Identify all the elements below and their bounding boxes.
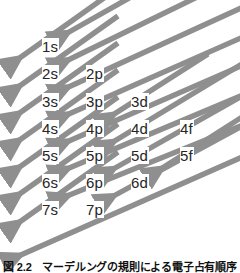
orbital-label-3s: 3s <box>42 93 59 110</box>
orbital-label-5p: 5p <box>86 147 104 164</box>
figure-caption: 図 2.2 マーデルングの規則による電子占有順序 <box>0 261 240 273</box>
orbital-label-6s: 6s <box>42 174 59 191</box>
orbital-label-3d: 3d <box>131 93 149 110</box>
orbital-label-3p: 3p <box>86 93 104 110</box>
orbital-label-4d: 4d <box>131 120 149 137</box>
orbital-label-1s: 1s <box>42 38 59 55</box>
orbital-label-7s: 7s <box>42 201 59 218</box>
orbital-label-5s: 5s <box>42 147 59 164</box>
orbital-label-5d: 5d <box>131 147 149 164</box>
orbital-label-5f: 5f <box>180 147 194 164</box>
orbital-label-6d: 6d <box>131 174 149 191</box>
orbital-label-2s: 2s <box>42 65 59 82</box>
orbital-label-4s: 4s <box>42 120 59 137</box>
orbital-label-2p: 2p <box>86 65 104 82</box>
orbital-label-4p: 4p <box>86 120 104 137</box>
orbital-label-7p: 7p <box>86 201 104 218</box>
orbital-label-4f: 4f <box>180 120 194 137</box>
orbital-label-6p: 6p <box>86 174 104 191</box>
